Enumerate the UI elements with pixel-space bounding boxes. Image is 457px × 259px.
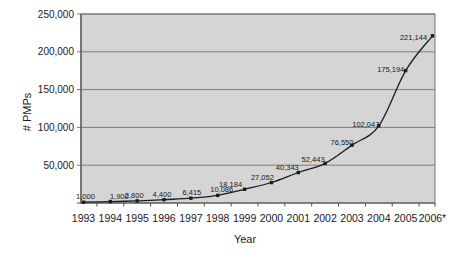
data-label: 40,343	[276, 163, 299, 172]
data-label: 4,400	[153, 190, 172, 199]
data-point-marker	[404, 69, 407, 72]
data-label: 18,184	[219, 180, 242, 189]
x-axis-tick-label: 2001	[287, 212, 311, 224]
chart-plot-area-group: 1,0001,9002,8004,4006,41510,08618,18427,…	[38, 9, 446, 224]
y-axis-tick-label: 150,000	[38, 84, 75, 95]
x-axis-tick-label: 1996	[152, 212, 176, 224]
chart-figure: 1,0001,9002,8004,4006,41510,08618,18427,…	[0, 0, 457, 259]
data-label: 102,047	[352, 120, 379, 129]
x-axis-tick-label: 1999	[233, 212, 257, 224]
data-point-marker	[243, 188, 246, 191]
x-axis-tick-label: 1995	[126, 212, 150, 224]
x-axis-tick-label: 1993	[72, 212, 96, 224]
y-axis-tick-label: 50,000	[43, 160, 74, 171]
x-axis-tick-label: 1998	[206, 212, 230, 224]
data-label: 52,443	[302, 155, 325, 164]
data-label: 27,052	[251, 173, 274, 182]
x-axis-title: Year	[234, 233, 257, 245]
y-axis-tick-label: 250,000	[38, 9, 75, 20]
x-axis-tick-label: 2003	[340, 212, 364, 224]
x-axis-tick-label: 2005	[394, 212, 418, 224]
x-axis-tick-label: 2000	[260, 212, 284, 224]
data-label: 2,800	[125, 191, 144, 200]
x-axis-tick-label: 2006*	[419, 212, 446, 224]
x-axis-tick-label: 1997	[179, 212, 203, 224]
y-axis-tick-label: 200,000	[38, 46, 75, 57]
x-axis-tick-label: 2004	[367, 212, 391, 224]
data-label: 175,194	[377, 65, 404, 74]
data-label: 76,550	[331, 138, 354, 147]
y-axis-tick-label: 100,000	[38, 122, 75, 133]
y-axis-title: # PMPs	[21, 92, 33, 131]
data-point-marker	[431, 34, 434, 37]
x-axis-tick-label: 1994	[99, 212, 123, 224]
x-axis-tick-label: 2002	[313, 212, 337, 224]
data-label: 1,000	[76, 192, 95, 201]
data-label: 6,415	[183, 188, 202, 197]
data-label: 221,144	[400, 33, 427, 42]
line-chart: 1,0001,9002,8004,4006,41510,08618,18427,…	[0, 0, 457, 259]
